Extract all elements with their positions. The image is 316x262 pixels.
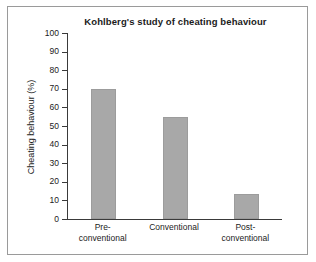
- y-axis-tick-label: 100: [35, 29, 59, 38]
- bar-series: [68, 33, 282, 219]
- y-axis-tick: [62, 89, 67, 90]
- y-axis-tick-label: 80: [35, 66, 59, 75]
- x-axis-tick-label-line: conventional: [205, 233, 285, 244]
- y-axis-tick: [62, 145, 67, 146]
- y-axis-tick: [62, 200, 67, 201]
- chart-title: Kohlberg's study of cheating behaviour: [68, 16, 283, 27]
- y-axis-tick: [62, 163, 67, 164]
- y-axis-tick-labels: 0102030405060708090100: [33, 0, 59, 262]
- y-axis-tick-label: 50: [35, 122, 59, 131]
- y-axis-tick-label: 40: [35, 140, 59, 149]
- y-axis-tick-label: 70: [35, 84, 59, 93]
- x-axis-tick-label-line: Pre-: [63, 222, 143, 233]
- bar: [234, 194, 259, 219]
- y-axis-tick: [62, 33, 67, 34]
- bar: [163, 117, 188, 219]
- x-axis-line: [67, 219, 282, 220]
- y-axis-tick-label: 90: [35, 47, 59, 56]
- y-axis-tick-label: 0: [35, 215, 59, 224]
- chart-figure: Kohlberg's study of cheating behaviour C…: [0, 0, 316, 262]
- y-axis-tick: [62, 107, 67, 108]
- y-axis-tick-label: 30: [35, 159, 59, 168]
- y-axis-tick: [62, 52, 67, 53]
- x-axis-tick-label: Post-conventional: [205, 222, 285, 244]
- y-axis-tick-label: 60: [35, 103, 59, 112]
- x-axis-tick-label-line: Post-: [205, 222, 285, 233]
- y-axis-tick: [62, 126, 67, 127]
- bar: [91, 89, 116, 219]
- y-axis-tick: [62, 219, 67, 220]
- x-axis-tick-label: Pre-conventional: [63, 222, 143, 244]
- x-axis-tick-label-line: Conventional: [134, 222, 214, 233]
- x-axis-tick-label-line: conventional: [63, 233, 143, 244]
- x-axis-tick-label: Conventional: [134, 222, 214, 233]
- y-axis-tick: [62, 182, 67, 183]
- y-axis-tick-label: 10: [35, 196, 59, 205]
- y-axis-tick-label: 20: [35, 177, 59, 186]
- y-axis-tick: [62, 70, 67, 71]
- x-axis-tick-labels: Pre-conventionalConventionalPost-convent…: [67, 222, 282, 256]
